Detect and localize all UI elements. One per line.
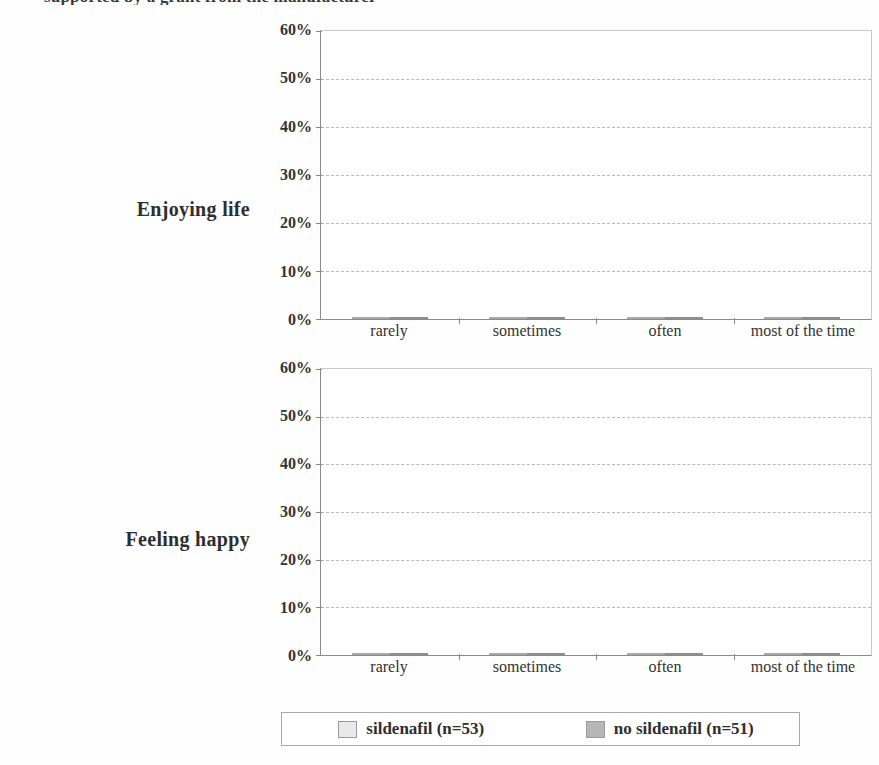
bar bbox=[665, 653, 703, 655]
y-tick-label: 20% bbox=[280, 214, 312, 232]
bar bbox=[489, 317, 527, 319]
y-axis-tick bbox=[316, 512, 322, 513]
gridline bbox=[321, 607, 871, 608]
y-tick-label: 50% bbox=[280, 69, 312, 87]
y-axis-tick bbox=[316, 127, 322, 128]
bar bbox=[527, 653, 565, 655]
x-axis-labels-chart1: rarelysometimesoftenmost of the time bbox=[320, 322, 872, 340]
x-tick-label: rarely bbox=[320, 658, 458, 676]
x-tick-label: rarely bbox=[320, 322, 458, 340]
bar bbox=[352, 317, 390, 319]
chart-feeling-happy: 0%10%20%30%40%50%60% rarelysometimesofte… bbox=[272, 368, 872, 656]
bar-pair bbox=[489, 317, 565, 319]
x-tick-label: often bbox=[596, 658, 734, 676]
bar bbox=[802, 317, 840, 319]
y-tick-label: 60% bbox=[280, 21, 312, 39]
row-label-feeling-happy: Feeling happy bbox=[0, 528, 250, 551]
x-tick-label: sometimes bbox=[458, 322, 596, 340]
legend-item-no-sildenafil: no sildenafil (n=51) bbox=[541, 719, 800, 739]
gridline bbox=[321, 223, 871, 224]
bar bbox=[352, 653, 390, 655]
y-axis-tick bbox=[316, 271, 322, 272]
y-tick-label: 20% bbox=[280, 551, 312, 569]
legend-swatch-no-sildenafil-icon bbox=[586, 721, 605, 738]
y-tick-label: 40% bbox=[280, 118, 312, 136]
y-axis-tick bbox=[316, 79, 322, 80]
gridline bbox=[321, 417, 871, 418]
gridline bbox=[321, 271, 871, 272]
y-axis-tick bbox=[316, 175, 322, 176]
plot-area-chart2 bbox=[320, 368, 872, 656]
bar-pair bbox=[627, 317, 703, 319]
x-tick-label: often bbox=[596, 322, 734, 340]
gridline bbox=[321, 560, 871, 561]
gridline bbox=[321, 464, 871, 465]
y-tick-label: 30% bbox=[280, 503, 312, 521]
clipped-title-fragment: supported by a grant from the manufactur… bbox=[44, 0, 744, 5]
y-tick-label: 10% bbox=[280, 599, 312, 617]
y-axis-tick bbox=[316, 31, 322, 32]
bar-pair bbox=[352, 653, 428, 655]
figure-page: supported by a grant from the manufactur… bbox=[0, 0, 879, 765]
chart-enjoying-life: 0%10%20%30%40%50%60% rarelysometimesofte… bbox=[272, 30, 872, 320]
bar bbox=[627, 653, 665, 655]
plot-area-chart1 bbox=[320, 30, 872, 320]
gridline bbox=[321, 79, 871, 80]
legend-swatch-sildenafil-icon bbox=[338, 721, 357, 738]
bar-pair bbox=[352, 317, 428, 319]
y-axis-tick bbox=[316, 417, 322, 418]
chart-legend: sildenafil (n=53) no sildenafil (n=51) bbox=[281, 712, 800, 746]
legend-label-no-sildenafil: no sildenafil (n=51) bbox=[614, 719, 754, 739]
bar bbox=[665, 317, 703, 319]
gridline bbox=[321, 127, 871, 128]
y-axis-tick bbox=[316, 319, 322, 320]
x-tick-label: sometimes bbox=[458, 658, 596, 676]
y-axis-tick bbox=[316, 607, 322, 608]
bar-pair bbox=[764, 653, 840, 655]
bar bbox=[527, 317, 565, 319]
y-tick-label: 40% bbox=[280, 455, 312, 473]
y-axis-tick bbox=[316, 464, 322, 465]
bar bbox=[390, 317, 428, 319]
x-tick-label: most of the time bbox=[734, 322, 872, 340]
bar bbox=[764, 317, 802, 319]
bar-pair bbox=[489, 653, 565, 655]
bar bbox=[627, 317, 665, 319]
y-tick-label: 30% bbox=[280, 166, 312, 184]
x-tick-label: most of the time bbox=[734, 658, 872, 676]
y-axis-tick bbox=[316, 560, 322, 561]
gridline bbox=[321, 512, 871, 513]
bar bbox=[802, 653, 840, 655]
bar bbox=[764, 653, 802, 655]
y-axis-tick bbox=[316, 655, 322, 656]
y-tick-label: 60% bbox=[280, 359, 312, 377]
y-axis-tick bbox=[316, 369, 322, 370]
y-tick-label: 10% bbox=[280, 263, 312, 281]
x-axis-labels-chart2: rarelysometimesoftenmost of the time bbox=[320, 658, 872, 676]
legend-item-sildenafil: sildenafil (n=53) bbox=[282, 719, 541, 739]
y-tick-label: 0% bbox=[288, 647, 312, 665]
gridline bbox=[321, 175, 871, 176]
bar bbox=[489, 653, 527, 655]
bar bbox=[390, 653, 428, 655]
y-tick-label: 0% bbox=[288, 311, 312, 329]
legend-label-sildenafil: sildenafil (n=53) bbox=[366, 719, 484, 739]
y-tick-label: 50% bbox=[280, 407, 312, 425]
y-axis-tick bbox=[316, 223, 322, 224]
row-label-enjoying-life: Enjoying life bbox=[0, 198, 250, 221]
y-axis-labels-chart1: 0%10%20%30%40%50%60% bbox=[272, 30, 316, 320]
bar-pair bbox=[627, 653, 703, 655]
bar-pair bbox=[764, 317, 840, 319]
y-axis-labels-chart2: 0%10%20%30%40%50%60% bbox=[272, 368, 316, 656]
